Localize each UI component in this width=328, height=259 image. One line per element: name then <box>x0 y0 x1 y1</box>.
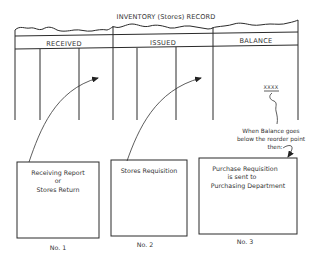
document-3-line-2: is sent to <box>228 173 257 180</box>
torn-edge <box>15 20 298 31</box>
reorder-note-line-2: below the reorder point <box>237 136 306 143</box>
document-1-line-1: Receiving Report <box>31 169 85 177</box>
document-3-line-3: Purchasing Department <box>211 182 286 190</box>
column-header-balance: BALANCE <box>239 37 272 45</box>
column-header-received: RECEIVED <box>46 40 82 48</box>
document-3-caption: No. 3 <box>237 238 253 245</box>
balance-squiggle-connector <box>270 93 278 124</box>
reorder-note-line-3: then: <box>267 144 282 150</box>
header-top-rule <box>15 32 298 36</box>
document-1-line-3: Stores Return <box>37 186 80 193</box>
balance-value: XXXX <box>264 84 279 90</box>
document-3-line-1: Purchase Requisition <box>212 165 277 173</box>
note-to-box3-arrow <box>283 146 292 158</box>
reorder-note-line-1: When Balance goes <box>242 128 299 135</box>
document-1-line-2: or <box>55 177 62 184</box>
column-header-issued: ISSUED <box>150 39 176 47</box>
record-title: INVENTORY (Stores) RECORD <box>117 13 216 21</box>
box1-to-received-arrow <box>29 78 98 162</box>
document-2-caption: No. 2 <box>137 241 153 248</box>
box2-to-issued-arrow <box>127 78 201 161</box>
document-2-line-1: Stores Requisition <box>121 167 178 175</box>
inventory-flow-diagram: INVENTORY (Stores) RECORD RECEIVED ISSUE… <box>0 0 328 259</box>
document-1-caption: No. 1 <box>50 244 66 251</box>
